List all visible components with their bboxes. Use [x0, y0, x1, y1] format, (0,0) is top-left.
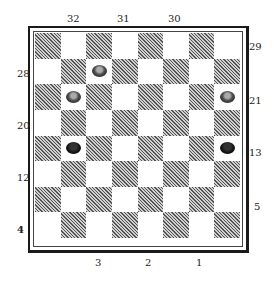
board-square[interactable] [35, 212, 61, 238]
board-square[interactable] [138, 136, 164, 162]
white-checker-piece[interactable] [66, 91, 81, 103]
board-square[interactable] [61, 33, 87, 59]
board-square[interactable] [189, 110, 215, 136]
board-square[interactable] [86, 187, 112, 213]
board-square[interactable] [163, 161, 189, 187]
board-square[interactable] [35, 187, 61, 213]
square-number-label: 31 [117, 14, 130, 24]
board-square[interactable] [112, 161, 138, 187]
square-number-label: 1 [196, 258, 202, 268]
board-square[interactable] [61, 84, 87, 110]
square-number-label: 30 [168, 14, 181, 24]
board-square[interactable] [35, 59, 61, 85]
white-checker-piece[interactable] [92, 65, 107, 77]
board-square[interactable] [86, 161, 112, 187]
board-square[interactable] [61, 187, 87, 213]
checkerboard [35, 33, 240, 238]
board-square[interactable] [138, 187, 164, 213]
board-square[interactable] [112, 187, 138, 213]
black-checker-piece[interactable] [66, 142, 81, 154]
board-square[interactable] [163, 212, 189, 238]
board-square[interactable] [112, 136, 138, 162]
square-number-label: 3 [95, 258, 101, 268]
board-square[interactable] [214, 110, 240, 136]
board-square[interactable] [138, 161, 164, 187]
board-square[interactable] [112, 212, 138, 238]
square-number-label: 21 [249, 96, 262, 106]
board-square[interactable] [214, 212, 240, 238]
board-square[interactable] [112, 33, 138, 59]
board-square[interactable] [61, 59, 87, 85]
board-square[interactable] [61, 161, 87, 187]
board-square[interactable] [35, 110, 61, 136]
board-square[interactable] [163, 59, 189, 85]
board-square[interactable] [138, 59, 164, 85]
board-square[interactable] [189, 33, 215, 59]
board-square[interactable] [35, 33, 61, 59]
board-square[interactable] [163, 84, 189, 110]
board-square[interactable] [86, 84, 112, 110]
board-square[interactable] [138, 212, 164, 238]
square-number-label: 29 [249, 42, 262, 52]
black-checker-piece[interactable] [220, 142, 235, 154]
board-square[interactable] [138, 33, 164, 59]
square-number-label: 4 [17, 225, 24, 235]
square-number-label: 32 [67, 14, 80, 24]
board-square[interactable] [189, 59, 215, 85]
board-square[interactable] [112, 59, 138, 85]
board-square[interactable] [86, 59, 112, 85]
board-square[interactable] [138, 110, 164, 136]
board-square[interactable] [189, 187, 215, 213]
board-square[interactable] [214, 161, 240, 187]
square-number-label: 5 [254, 202, 260, 212]
board-square[interactable] [35, 84, 61, 110]
board-square[interactable] [112, 110, 138, 136]
board-square[interactable] [214, 59, 240, 85]
board-square[interactable] [163, 187, 189, 213]
board-square[interactable] [189, 212, 215, 238]
board-square[interactable] [163, 136, 189, 162]
board-square[interactable] [86, 33, 112, 59]
board-square[interactable] [61, 136, 87, 162]
board-square[interactable] [189, 136, 215, 162]
square-number-label: 13 [249, 148, 262, 158]
board-square[interactable] [35, 161, 61, 187]
white-checker-piece[interactable] [220, 91, 235, 103]
board-square[interactable] [35, 136, 61, 162]
board-square[interactable] [163, 33, 189, 59]
board-square[interactable] [86, 110, 112, 136]
board-square[interactable] [61, 212, 87, 238]
board-square[interactable] [214, 187, 240, 213]
board-square[interactable] [86, 136, 112, 162]
square-number-label: 28 [17, 69, 30, 79]
board-square[interactable] [86, 212, 112, 238]
square-number-label: 12 [17, 173, 30, 183]
board-square[interactable] [214, 136, 240, 162]
square-number-label: 2 [145, 258, 151, 268]
board-square[interactable] [189, 84, 215, 110]
board-square[interactable] [214, 33, 240, 59]
board-square[interactable] [214, 84, 240, 110]
board-square[interactable] [61, 110, 87, 136]
board-square[interactable] [112, 84, 138, 110]
board-square[interactable] [189, 161, 215, 187]
board-square[interactable] [138, 84, 164, 110]
square-number-label: 20 [17, 121, 30, 131]
board-square[interactable] [163, 110, 189, 136]
